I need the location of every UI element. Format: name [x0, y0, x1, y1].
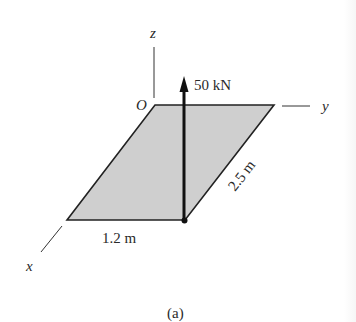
x-axis — [41, 226, 62, 252]
origin-label: O — [136, 97, 147, 113]
page-edge-shade — [344, 0, 356, 322]
force-on-plate-diagram: z y x O 50 kN 1.2 m 2.5 m (a) — [0, 0, 356, 322]
force-label: 50 kN — [194, 77, 231, 93]
force-application-point — [182, 218, 188, 224]
z-axis-label: z — [149, 25, 156, 41]
dimension-x-label: 1.2 m — [102, 230, 137, 246]
x-axis-label: x — [25, 258, 33, 274]
force-arrow-head-icon — [180, 76, 189, 92]
y-axis-label: y — [320, 98, 329, 114]
figure-caption: (a) — [167, 305, 184, 322]
